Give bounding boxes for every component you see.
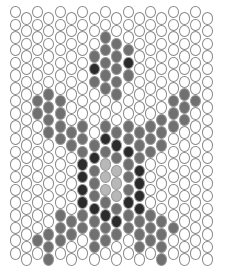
- bead-filled: [100, 57, 111, 70]
- bead-empty: [190, 146, 201, 159]
- bead-empty: [134, 253, 145, 266]
- bead-filled: [123, 120, 134, 133]
- bead-empty: [190, 158, 201, 171]
- bead-empty: [10, 107, 21, 120]
- bead-empty: [10, 31, 21, 44]
- bead-empty: [168, 6, 179, 19]
- bead-empty: [10, 44, 21, 57]
- bead-empty: [202, 152, 213, 165]
- bead-empty: [202, 50, 213, 63]
- bead-empty: [32, 57, 43, 70]
- bead-filled: [66, 228, 77, 241]
- bead-empty: [55, 184, 66, 197]
- bead-pattern-grid: [0, 0, 228, 276]
- bead-empty: [156, 203, 167, 216]
- bead-filled: [145, 146, 156, 159]
- bead-empty: [168, 171, 179, 184]
- bead-empty: [21, 139, 32, 152]
- bead-filled: [111, 165, 122, 178]
- bead-empty: [100, 95, 111, 108]
- bead-empty: [32, 120, 43, 133]
- bead-empty: [77, 57, 88, 70]
- bead-empty: [77, 19, 88, 32]
- bead-empty: [21, 203, 32, 216]
- bead-empty: [168, 44, 179, 57]
- bead-empty: [179, 12, 190, 25]
- bead-filled: [123, 146, 134, 159]
- bead-filled: [111, 215, 122, 228]
- bead-empty: [32, 133, 43, 146]
- bead-empty: [55, 146, 66, 159]
- bead-empty: [32, 44, 43, 57]
- bead-empty: [202, 228, 213, 241]
- bead-empty: [77, 31, 88, 44]
- bead-empty: [89, 101, 100, 114]
- bead-filled: [89, 139, 100, 152]
- bead-filled: [111, 38, 122, 51]
- bead-empty: [111, 241, 122, 254]
- bead-empty: [66, 114, 77, 127]
- bead-filled: [123, 209, 134, 222]
- bead-filled: [89, 177, 100, 190]
- bead-empty: [190, 107, 201, 120]
- bead-filled: [145, 222, 156, 235]
- bead-empty: [202, 12, 213, 25]
- bead-empty: [77, 69, 88, 82]
- bead-filled: [134, 126, 145, 139]
- bead-filled: [55, 133, 66, 146]
- bead-empty: [10, 69, 21, 82]
- bead-empty: [179, 126, 190, 139]
- bead-empty: [66, 177, 77, 190]
- bead-filled: [134, 177, 145, 190]
- bead-empty: [43, 50, 54, 63]
- bead-empty: [123, 247, 134, 260]
- bead-empty: [145, 95, 156, 108]
- bead-empty: [202, 190, 213, 203]
- bead-empty: [156, 165, 167, 178]
- bead-filled: [55, 222, 66, 235]
- bead-empty: [202, 253, 213, 266]
- bead-empty: [43, 177, 54, 190]
- bead-filled: [100, 133, 111, 146]
- bead-empty: [156, 101, 167, 114]
- bead-filled: [77, 196, 88, 209]
- bead-empty: [134, 114, 145, 127]
- bead-empty: [202, 241, 213, 254]
- bead-empty: [100, 19, 111, 32]
- bead-empty: [168, 146, 179, 159]
- bead-filled: [179, 114, 190, 127]
- bead-empty: [100, 247, 111, 260]
- bead-filled: [77, 171, 88, 184]
- bead-filled: [77, 120, 88, 133]
- bead-empty: [123, 82, 134, 95]
- bead-empty: [100, 107, 111, 120]
- bead-empty: [21, 76, 32, 89]
- bead-filled: [156, 126, 167, 139]
- bead-empty: [66, 76, 77, 89]
- bead-empty: [43, 215, 54, 228]
- bead-empty: [21, 88, 32, 101]
- bead-empty: [179, 38, 190, 51]
- bead-empty: [168, 234, 179, 247]
- bead-empty: [168, 158, 179, 171]
- bead-empty: [21, 241, 32, 254]
- bead-empty: [21, 12, 32, 25]
- bead-empty: [66, 38, 77, 51]
- bead-filled: [111, 88, 122, 101]
- bead-filled: [145, 133, 156, 146]
- bead-empty: [32, 247, 43, 260]
- bead-empty: [145, 158, 156, 171]
- bead-empty: [190, 247, 201, 260]
- bead-empty: [89, 38, 100, 51]
- bead-filled: [123, 44, 134, 57]
- bead-empty: [66, 101, 77, 114]
- bead-empty: [89, 253, 100, 266]
- bead-empty: [77, 247, 88, 260]
- bead-empty: [145, 247, 156, 260]
- bead-empty: [134, 25, 145, 38]
- bead-empty: [202, 126, 213, 139]
- bead-filled: [156, 114, 167, 127]
- bead-filled: [168, 95, 179, 108]
- bead-filled: [55, 209, 66, 222]
- bead-empty: [111, 114, 122, 127]
